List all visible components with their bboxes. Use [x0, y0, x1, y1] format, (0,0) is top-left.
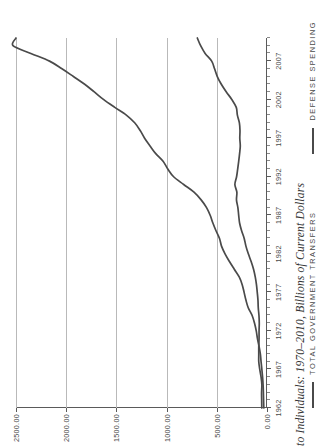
x-axis-label: 1977	[274, 284, 283, 301]
x-axis-tick-minor	[267, 37, 270, 38]
y-axis-tick	[267, 408, 268, 412]
x-axis-tick-minor	[267, 45, 270, 46]
legend-item: DEFENSE SPENDING	[308, 21, 317, 154]
y-axis-label: 500.00	[212, 414, 221, 438]
x-axis-tick-minor	[267, 183, 270, 184]
y-axis-label: 1000.00	[162, 414, 171, 442]
y-axis-tick	[217, 408, 218, 412]
x-axis-tick-minor	[267, 307, 270, 308]
x-axis-tick	[267, 99, 271, 100]
x-axis-tick-minor	[267, 392, 270, 393]
x-axis-tick-minor	[267, 191, 270, 192]
series-lines	[16, 38, 267, 408]
figure-title: to Individuals: 1970–2010, Billions of C…	[294, 0, 306, 446]
x-axis-tick-minor	[267, 68, 270, 69]
x-axis-tick-minor	[267, 376, 270, 377]
x-axis-tick-minor	[267, 160, 270, 161]
x-axis-tick-minor	[267, 237, 270, 238]
x-axis-label: 1962	[274, 399, 283, 416]
x-axis-label: 1972	[274, 322, 283, 339]
x-axis-tick-minor	[267, 199, 270, 200]
x-axis-tick-minor	[267, 353, 270, 354]
x-axis-tick-minor	[267, 52, 270, 53]
x-axis-tick-minor	[267, 153, 270, 154]
x-axis-label: 2007	[274, 53, 283, 70]
y-axis-tick	[16, 408, 17, 412]
x-axis-label: 1992	[274, 168, 283, 185]
y-axis-tick	[167, 408, 168, 412]
x-axis-tick-minor	[267, 130, 270, 131]
x-axis-label: 1997	[274, 130, 283, 147]
rotated-chart-stage: to Individuals: 1970–2010, Billions of C…	[0, 0, 325, 446]
x-axis-label: 1967	[274, 361, 283, 378]
x-axis-tick-minor	[267, 284, 270, 285]
x-axis-tick	[267, 291, 271, 292]
x-axis-tick-minor	[267, 222, 270, 223]
legend-item: TOTAL GOVERNMENT TRANSFERS	[308, 212, 317, 408]
x-axis-tick-minor	[267, 276, 270, 277]
legend: TOTAL GOVERNMENT TRANSFERSDEFENSE SPENDI…	[308, 38, 317, 408]
x-axis-tick-minor	[267, 315, 270, 316]
x-axis-tick	[267, 407, 271, 408]
x-axis-tick-minor	[267, 268, 270, 269]
x-axis-label: 1987	[274, 207, 283, 224]
y-axis-tick	[116, 408, 117, 412]
x-axis-tick	[267, 253, 271, 254]
x-axis-tick-minor	[267, 245, 270, 246]
x-axis-tick	[267, 137, 271, 138]
x-axis-tick-minor	[267, 91, 270, 92]
x-axis-tick-minor	[267, 145, 270, 146]
y-axis-tick	[66, 408, 67, 412]
x-axis-tick-minor	[267, 384, 270, 385]
x-axis-tick-minor	[267, 114, 270, 115]
legend-label: TOTAL GOVERNMENT TRANSFERS	[308, 212, 317, 375]
x-axis-tick-minor	[267, 338, 270, 339]
x-axis-tick-minor	[267, 399, 270, 400]
series-line-1	[12, 38, 263, 408]
y-axis-label: 0.00	[263, 414, 272, 429]
x-axis-tick-minor	[267, 345, 270, 346]
legend-label: DEFENSE SPENDING	[308, 21, 317, 121]
x-axis-label: 2002	[274, 91, 283, 108]
x-axis-tick	[267, 214, 271, 215]
x-axis-tick	[267, 176, 271, 177]
y-axis-label: 1500.00	[112, 414, 121, 442]
y-axis-label: 2000.00	[62, 414, 71, 442]
x-axis-tick	[267, 330, 271, 331]
x-axis-tick-minor	[267, 299, 270, 300]
figure: to Individuals: 1970–2010, Billions of C…	[0, 0, 325, 446]
x-axis-label: 1982	[274, 245, 283, 262]
x-axis-tick-minor	[267, 207, 270, 208]
series-line-2	[197, 38, 262, 408]
line-swatch-icon	[312, 128, 314, 154]
x-axis-tick-minor	[267, 168, 270, 169]
line-swatch-icon	[312, 382, 314, 408]
x-axis-tick	[267, 368, 271, 369]
x-axis-tick-minor	[267, 83, 270, 84]
x-axis-tick-minor	[267, 76, 270, 77]
x-axis-tick-minor	[267, 106, 270, 107]
plot-area: 0.00500.001000.001500.002000.002500.00 1…	[16, 38, 267, 408]
x-axis-tick-minor	[267, 361, 270, 362]
chart-page: to Individuals: 1970–2010, Billions of C…	[0, 0, 325, 446]
y-axis-label: 2500.00	[12, 414, 21, 442]
x-axis-tick-minor	[267, 122, 270, 123]
x-axis-tick-minor	[267, 230, 270, 231]
x-axis-tick-minor	[267, 322, 270, 323]
x-axis-tick	[267, 60, 271, 61]
x-axis-tick-minor	[267, 261, 270, 262]
